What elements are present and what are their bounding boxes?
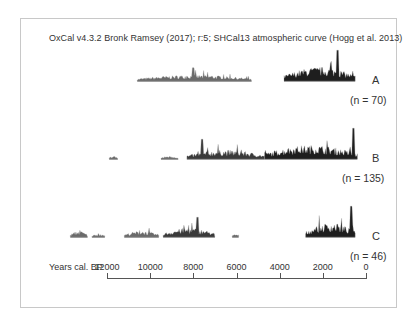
x-axis-tick-label: 10000 bbox=[138, 262, 163, 272]
x-axis-tick-label: 0 bbox=[363, 262, 368, 272]
series-c-distribution bbox=[70, 206, 355, 237]
probability-density-segment bbox=[109, 156, 118, 159]
probability-density-segment bbox=[137, 68, 251, 81]
x-axis-tick-label: 8000 bbox=[183, 262, 203, 272]
series-a-label: A bbox=[372, 74, 379, 86]
series-b-distribution bbox=[109, 128, 357, 159]
x-axis bbox=[107, 273, 367, 279]
probability-density-segment bbox=[70, 230, 87, 237]
probability-density-segment bbox=[284, 50, 355, 81]
x-axis-tick-label: 6000 bbox=[226, 262, 246, 272]
series-a-distribution bbox=[137, 50, 355, 81]
probability-density-segment bbox=[163, 217, 215, 237]
series-a-count: (n = 70) bbox=[350, 94, 386, 106]
series-c-count: (n = 46) bbox=[350, 250, 386, 262]
probability-density-segment bbox=[265, 128, 358, 159]
probability-density-segment bbox=[306, 206, 356, 237]
probability-density-segment bbox=[124, 228, 159, 237]
series-b-label: B bbox=[372, 152, 379, 164]
series-b-count: (n = 135) bbox=[342, 172, 384, 184]
plot-area bbox=[0, 0, 417, 329]
x-axis-tick-label: 4000 bbox=[270, 262, 290, 272]
series-c-label: C bbox=[372, 230, 380, 242]
probability-density-segment bbox=[232, 235, 239, 237]
probability-density-segment bbox=[92, 234, 105, 238]
x-axis-tick-label: 2000 bbox=[313, 262, 333, 272]
probability-density-segment bbox=[187, 139, 265, 159]
probability-density-segment bbox=[161, 156, 178, 159]
x-axis-tick-label: 12000 bbox=[94, 262, 119, 272]
